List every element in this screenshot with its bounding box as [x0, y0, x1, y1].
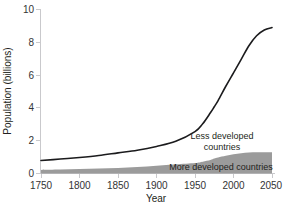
y-axis-title: Population (billions)	[2, 47, 13, 134]
annotation-less-developed: Less developed countries	[190, 131, 253, 152]
y-tick-label-2: 2	[28, 135, 34, 146]
x-axis-tick-labels: 1750 1800 1850 1900 1950 2000 2050	[30, 180, 283, 191]
x-tick-label-1750: 1750	[30, 180, 53, 191]
x-tick-label-1800: 1800	[68, 180, 91, 191]
x-tick-label-2050: 2050	[260, 180, 283, 191]
x-tick-label-2000: 2000	[222, 180, 245, 191]
more-developed-label: More developed countries	[169, 162, 273, 172]
chart-canvas: 10 8 6 4 2 0 1750 1800 1850 1900 1950 20…	[0, 0, 290, 207]
y-axis-tick-labels: 10 8 6 4 2 0	[23, 4, 35, 179]
less-developed-line2: countries	[204, 142, 241, 152]
x-tick-label-1950: 1950	[184, 180, 207, 191]
less-developed-line1: Less developed	[190, 131, 253, 141]
x-axis-ticks	[41, 174, 272, 179]
y-tick-label-8: 8	[28, 37, 34, 48]
x-tick-label-1850: 1850	[107, 180, 130, 191]
y-tick-label-6: 6	[28, 70, 34, 81]
y-tick-label-10: 10	[23, 4, 35, 15]
y-tick-label-0: 0	[28, 168, 34, 179]
y-tick-label-4: 4	[28, 102, 34, 113]
y-axis-ticks	[36, 10, 41, 174]
x-axis-title: Year	[146, 193, 167, 204]
x-tick-label-1900: 1900	[145, 180, 168, 191]
population-growth-chart: 10 8 6 4 2 0 1750 1800 1850 1900 1950 20…	[0, 0, 290, 207]
